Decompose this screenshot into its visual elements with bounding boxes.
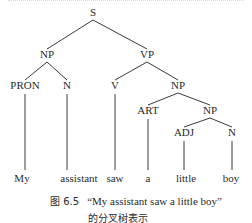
figure-caption-title: “My assistant saw a little boy” [87,195,222,207]
tree-edge-s-np1 [47,20,93,49]
tree-edge-np1-n1 [47,62,67,80]
tree-edge-s-vp [93,20,147,49]
tree-node-art: ART [137,104,159,116]
tree-node-np2: NP [171,79,185,91]
tree-edge-vp-v [115,62,147,80]
tree-node-v: V [111,79,119,91]
tree-node-pron: PRON [10,79,39,91]
tree-leaf-word: boy [223,172,240,184]
tree-leaves: Myassistantsawalittleboy [14,172,239,184]
tree-leaf-word: My [14,172,30,184]
tree-edge-vp-np2 [147,62,178,80]
figure-caption-line1: 图 6.5“My assistant saw a little boy” [10,193,252,208]
tree-edges [25,20,232,170]
tree-leaf-word: little [176,172,196,184]
tree-node-np1: NP [40,48,54,60]
tree-leaf-word: assistant [60,172,97,184]
tree-node-vp: VP [140,48,154,60]
tree-nodes: SNPVPPRONNVNPARTNPADJN [10,6,236,138]
tree-node-np3: NP [203,104,217,116]
parse-tree-diagram: SNPVPPRONNVNPARTNPADJN Myassistantsawali… [0,0,252,192]
figure-number: 图 6.5 [50,196,79,207]
tree-node-n2: N [228,126,236,138]
tree-leaf-word: saw [106,172,123,184]
tree-leaf-word: a [146,172,151,184]
tree-node-adj: ADJ [174,126,195,138]
tree-edge-np1-pron [25,62,47,80]
tree-node-s: S [90,6,96,18]
figure-caption-line2: 的分叉树表示 [0,210,244,223]
tree-node-n1: N [63,79,71,91]
